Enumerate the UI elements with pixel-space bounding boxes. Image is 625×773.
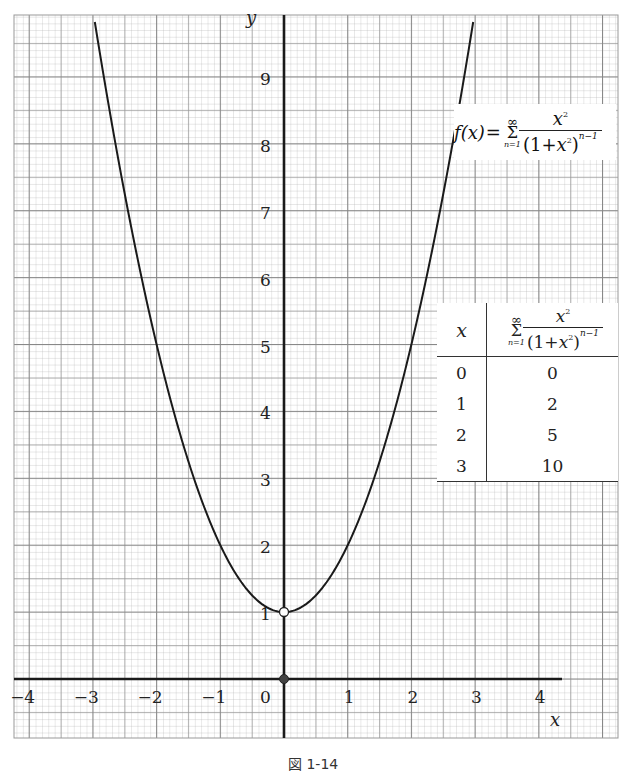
den-var: x xyxy=(556,134,566,155)
table-header-sum: ∞ Σ n=1 x2 (1+x2)n−1 xyxy=(487,303,618,356)
x-tick-label: 0 xyxy=(260,687,271,707)
numerator-var: x xyxy=(553,108,563,129)
table-cell-value: 0 xyxy=(487,357,618,388)
x-tick-label: −1 xyxy=(201,687,226,707)
table-cell-x: 2 xyxy=(437,419,487,450)
y-tick-label: 6 xyxy=(260,270,271,290)
y-tick-label: 3 xyxy=(260,470,271,490)
formula-lhs: f(x) xyxy=(454,122,485,143)
den-open: (1+ xyxy=(523,134,557,155)
x-tick-label: −4 xyxy=(10,687,35,707)
sum-lower-limit: n=1 xyxy=(508,339,525,347)
den-close: ) xyxy=(572,134,579,155)
x-tick-label: −3 xyxy=(74,687,99,707)
numerator-var: x xyxy=(556,306,566,326)
y-tick-label: 2 xyxy=(260,537,271,557)
formula-equals: = xyxy=(486,122,501,143)
y-tick-label: 7 xyxy=(260,203,271,223)
table-header-x: x xyxy=(437,303,487,356)
table-cell-value: 10 xyxy=(487,450,618,481)
y-tick-label: 4 xyxy=(260,403,271,423)
den-exp: n−1 xyxy=(579,131,598,141)
den-var: x xyxy=(559,332,569,352)
x-tick-label: −2 xyxy=(138,687,163,707)
table-header: x ∞ Σ n=1 x2 (1+x2)n−1 xyxy=(437,303,618,357)
sigma-glyph: Σ xyxy=(507,125,518,141)
header-fraction: x2 (1+x2)n−1 xyxy=(527,308,599,352)
den-close: ) xyxy=(573,332,580,352)
filled-point-marker xyxy=(280,675,289,684)
numerator-exp: 2 xyxy=(563,110,568,119)
table-cell-x: 1 xyxy=(437,388,487,419)
table-cell-x: 3 xyxy=(437,450,487,481)
x-tick-label: 1 xyxy=(344,687,355,707)
figure-caption: 図 1-14 xyxy=(288,753,338,773)
x-tick-label: 3 xyxy=(471,687,482,707)
table-row: 2 5 xyxy=(437,419,618,450)
formula-annotation: f(x) = ∞ Σ n=1 x2 (1+x2)n−1 xyxy=(454,104,616,160)
table-cell-value: 2 xyxy=(487,388,618,419)
table-row: 0 0 xyxy=(437,357,618,388)
formula-fraction: x2 (1+x2)n−1 xyxy=(523,110,598,155)
values-table: x ∞ Σ n=1 x2 (1+x2)n−1 0 0 1 2 2 5 3 10 xyxy=(437,303,618,481)
table-cell-value: 5 xyxy=(487,419,618,450)
table-row: 1 2 xyxy=(437,388,618,419)
y-tick-label: 5 xyxy=(260,337,271,357)
y-tick-labels: 123456789 xyxy=(260,69,271,624)
table-row: 3 10 xyxy=(437,450,618,482)
x-tick-label: 4 xyxy=(535,687,546,707)
y-tick-label: 8 xyxy=(260,136,271,156)
sigma-glyph: Σ xyxy=(511,323,522,339)
y-axis-label: y xyxy=(245,7,257,28)
x-tick-label: 2 xyxy=(407,687,418,707)
table-cell-x: 0 xyxy=(437,357,487,388)
den-open: (1+ xyxy=(527,332,559,352)
numerator-exp: 2 xyxy=(565,307,570,316)
x-axis-label: x xyxy=(550,709,560,730)
open-point-marker xyxy=(280,608,289,617)
sum-lower-limit: n=1 xyxy=(504,141,521,149)
y-tick-label: 9 xyxy=(260,69,271,89)
den-exp: n−1 xyxy=(580,328,599,338)
